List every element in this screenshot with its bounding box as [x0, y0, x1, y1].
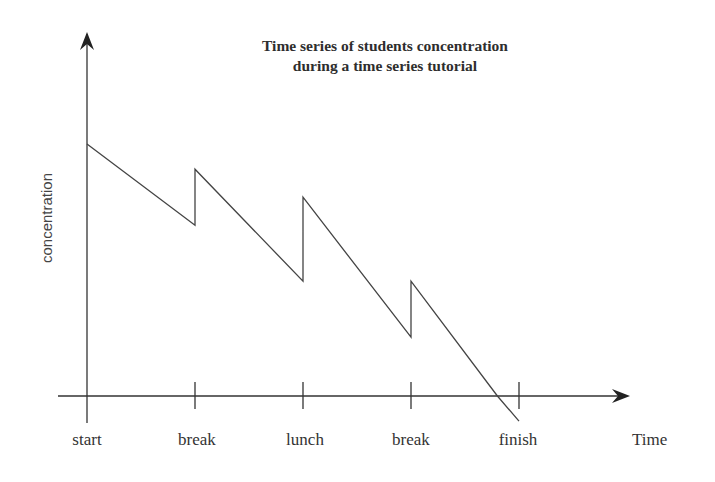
- concentration-line: [87, 144, 519, 421]
- x-tick-label-start: start: [72, 430, 101, 450]
- x-tick-label-finish: finish: [499, 430, 538, 450]
- chart-title: Time series of students concentration du…: [190, 36, 580, 76]
- x-tick-label-break-1: break: [178, 430, 216, 450]
- y-axis-label: concentration: [38, 173, 55, 263]
- x-tick-label-lunch: lunch: [286, 430, 324, 450]
- chart-title-line-1: Time series of students concentration: [190, 36, 580, 56]
- chart-title-line-2: during a time series tutorial: [190, 56, 580, 76]
- x-axis-label: Time: [632, 430, 667, 450]
- x-tick-label-break-2: break: [392, 430, 430, 450]
